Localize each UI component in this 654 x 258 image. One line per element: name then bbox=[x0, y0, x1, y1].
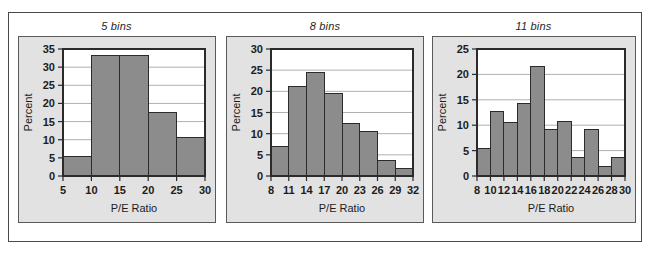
chart-canvas-1: 05101520253081114172023262932P/E RatioPe… bbox=[226, 36, 424, 223]
histogram-bar bbox=[517, 103, 530, 176]
histogram-bar bbox=[324, 94, 342, 176]
x-tick-label: 10 bbox=[484, 184, 496, 196]
x-tick-label: 30 bbox=[618, 184, 630, 196]
x-tick-label: 8 bbox=[268, 184, 274, 196]
x-axis-title: P/E Ratio bbox=[110, 202, 156, 214]
histogram-bar bbox=[119, 56, 147, 176]
y-tick-label: 30 bbox=[251, 43, 263, 55]
histogram-bar bbox=[477, 149, 490, 176]
y-tick-label: 0 bbox=[257, 170, 263, 182]
x-axis-title: P/E Ratio bbox=[319, 202, 365, 214]
histogram-bar bbox=[490, 112, 503, 176]
y-tick-label: 15 bbox=[251, 107, 263, 119]
chart-canvas-0: 0510152025303551015202530P/E RatioPercen… bbox=[18, 36, 216, 223]
histogram-bar bbox=[544, 130, 557, 176]
y-tick-label: 10 bbox=[251, 128, 263, 140]
x-axis-title: P/E Ratio bbox=[527, 202, 573, 214]
histogram-bar bbox=[289, 87, 307, 176]
x-tick-label: 15 bbox=[113, 184, 125, 196]
y-tick-label: 0 bbox=[48, 170, 54, 182]
x-tick-label: 30 bbox=[198, 184, 210, 196]
x-tick-label: 25 bbox=[170, 184, 182, 196]
x-tick-label: 29 bbox=[389, 184, 401, 196]
x-tick-label: 16 bbox=[524, 184, 536, 196]
y-tick-label: 20 bbox=[456, 68, 468, 80]
y-tick-label: 35 bbox=[42, 43, 54, 55]
histogram-bar bbox=[378, 161, 396, 176]
x-tick-label: 28 bbox=[605, 184, 617, 196]
histogram-bar bbox=[271, 146, 289, 176]
y-tick-label: 10 bbox=[42, 134, 54, 146]
x-tick-label: 8 bbox=[473, 184, 479, 196]
histogram-bar bbox=[63, 157, 91, 176]
x-tick-label: 20 bbox=[142, 184, 154, 196]
x-tick-label: 32 bbox=[407, 184, 419, 196]
y-axis-title: Percent bbox=[230, 94, 242, 132]
x-tick-label: 20 bbox=[551, 184, 563, 196]
y-tick-label: 15 bbox=[456, 94, 468, 106]
x-tick-label: 26 bbox=[591, 184, 603, 196]
x-tick-label: 23 bbox=[354, 184, 366, 196]
x-tick-label: 26 bbox=[371, 184, 383, 196]
histogram-panel-0: 5 bins 0510152025303551015202530P/E Rati… bbox=[14, 17, 219, 223]
x-tick-label: 14 bbox=[300, 184, 313, 196]
histogram-bar bbox=[598, 166, 611, 176]
panel-title: 5 bins bbox=[101, 20, 132, 32]
chart-canvas-2: 051015202581012141618202224262830P/E Rat… bbox=[432, 36, 636, 223]
histogram-bar bbox=[503, 122, 516, 176]
x-tick-label: 18 bbox=[538, 184, 550, 196]
x-tick-label: 12 bbox=[497, 184, 509, 196]
y-tick-label: 10 bbox=[456, 119, 468, 131]
histogram-bar bbox=[530, 66, 543, 176]
y-tick-label: 25 bbox=[456, 43, 468, 55]
histogram-bar bbox=[176, 138, 204, 176]
y-tick-label: 5 bbox=[257, 149, 263, 161]
y-tick-label: 5 bbox=[462, 145, 468, 157]
histogram-panel-2: 11 bins 05101520258101214161820222426283… bbox=[431, 17, 636, 223]
panel-title: 11 bins bbox=[515, 20, 551, 32]
y-tick-label: 5 bbox=[48, 152, 54, 164]
histogram-bar bbox=[611, 158, 624, 176]
histogram-bar bbox=[91, 56, 119, 176]
histogram-bar bbox=[584, 130, 597, 176]
y-tick-label: 0 bbox=[462, 170, 468, 182]
histogram-panel-1: 8 bins 05101520253081114172023262932P/E … bbox=[223, 17, 428, 223]
y-tick-label: 20 bbox=[42, 97, 54, 109]
x-tick-label: 17 bbox=[318, 184, 330, 196]
histogram-bar bbox=[395, 168, 413, 176]
y-tick-label: 25 bbox=[251, 64, 263, 76]
histogram-bar bbox=[307, 73, 325, 176]
y-tick-label: 25 bbox=[42, 79, 54, 91]
panel-title: 8 bins bbox=[310, 20, 341, 32]
x-tick-label: 20 bbox=[336, 184, 348, 196]
y-tick-label: 20 bbox=[251, 85, 263, 97]
y-axis-title: Percent bbox=[436, 94, 448, 132]
y-tick-label: 15 bbox=[42, 116, 54, 128]
x-tick-label: 11 bbox=[283, 184, 295, 196]
histogram-bar bbox=[571, 158, 584, 176]
histogram-bar bbox=[360, 131, 378, 176]
x-tick-label: 5 bbox=[59, 184, 65, 196]
x-tick-label: 14 bbox=[511, 184, 524, 196]
y-axis-title: Percent bbox=[22, 94, 34, 132]
histogram-bar bbox=[342, 124, 360, 176]
histogram-bar bbox=[557, 122, 570, 176]
histogram-bar bbox=[148, 112, 176, 176]
figure-frame: 5 bins 0510152025303551015202530P/E Rati… bbox=[8, 12, 642, 242]
x-tick-label: 24 bbox=[578, 184, 591, 196]
x-tick-label: 22 bbox=[565, 184, 577, 196]
x-tick-label: 10 bbox=[85, 184, 97, 196]
y-tick-label: 30 bbox=[42, 61, 54, 73]
